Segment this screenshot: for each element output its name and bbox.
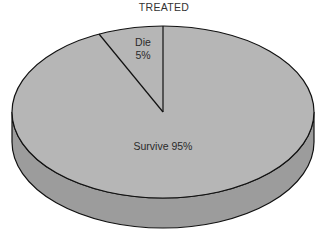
die-label-name: Die (128, 36, 158, 49)
die-label-pct: 5% (128, 49, 158, 62)
die-label: Die 5% (128, 36, 158, 62)
pie-chart-3d (0, 0, 328, 234)
survive-label: Survive 95% (113, 140, 213, 153)
